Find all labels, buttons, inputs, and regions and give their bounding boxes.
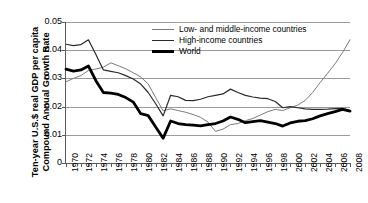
x-tick-label: 1978 — [129, 153, 139, 172]
x-tick-label: 1986 — [189, 153, 199, 172]
y-tick-label: 0.04 — [44, 44, 62, 54]
x-tick-label: 1972 — [84, 153, 94, 172]
x-tick-mark — [275, 163, 276, 167]
x-tick-mark — [171, 163, 172, 167]
x-tick-mark — [201, 163, 202, 167]
x-tick-mark — [215, 163, 216, 167]
x-tick-mark — [335, 163, 336, 167]
x-tick-label: 1990 — [219, 153, 229, 172]
x-tick-mark — [290, 163, 291, 167]
x-tick-label: 2000 — [294, 153, 304, 172]
y-tick-label: 0.05 — [44, 16, 62, 26]
x-tick-label: 2004 — [324, 153, 334, 172]
y-tick-label: 0.02 — [44, 101, 62, 111]
x-tick-mark — [260, 163, 261, 167]
legend-label-high-income: High-income countries — [179, 35, 262, 46]
legend-label-world: World — [179, 46, 201, 57]
chart-figure: Ten-year U.S.$ real GDP per capita Compo… — [0, 0, 368, 203]
x-tick-label: 1984 — [174, 153, 184, 172]
y-tick-label: 0.03 — [44, 72, 62, 82]
x-tick-mark — [126, 163, 127, 167]
x-tick-mark — [141, 163, 142, 167]
legend-item-low-middle-income: Low- and middle-income countries — [152, 24, 307, 35]
x-tick-label: 1988 — [204, 153, 214, 172]
x-tick-label: 2002 — [309, 153, 319, 172]
x-tick-mark — [350, 163, 351, 167]
x-tick-mark — [96, 163, 97, 167]
x-tick-label: 1982 — [159, 153, 169, 172]
x-tick-mark — [81, 163, 82, 167]
x-tick-label: 1996 — [264, 153, 274, 172]
x-tick-label: 1992 — [234, 153, 244, 172]
legend-item-high-income: High-income countries — [152, 35, 307, 46]
legend-swatch-high-income — [152, 40, 174, 41]
x-tick-mark — [156, 163, 157, 167]
x-tick-label: 1980 — [144, 153, 154, 172]
chart-legend: Low- and middle-income countries High-in… — [152, 24, 307, 57]
x-tick-mark — [305, 163, 306, 167]
x-tick-mark — [230, 163, 231, 167]
y-tick-label: 0 — [57, 157, 62, 167]
x-tick-label: 2006 — [339, 153, 349, 172]
y-axis-tick-labels: 0.050.040.030.020.010 — [28, 22, 62, 163]
x-tick-label: 2008 — [354, 153, 364, 172]
x-tick-label: 1998 — [279, 153, 289, 172]
x-tick-label: 1970 — [70, 153, 80, 172]
legend-label-low-middle-income: Low- and middle-income countries — [179, 24, 307, 35]
x-tick-mark — [320, 163, 321, 167]
x-tick-mark — [66, 163, 67, 167]
y-tick-label: 0.01 — [44, 129, 62, 139]
x-tick-label: 1994 — [249, 153, 259, 172]
x-tick-mark — [245, 163, 246, 167]
x-tick-mark — [186, 163, 187, 167]
x-tick-label: 1976 — [114, 153, 124, 172]
legend-swatch-world — [152, 50, 174, 53]
legend-item-world: World — [152, 46, 307, 57]
legend-swatch-low-middle-income — [152, 29, 174, 30]
x-tick-mark — [111, 163, 112, 167]
x-tick-label: 1974 — [99, 153, 109, 172]
